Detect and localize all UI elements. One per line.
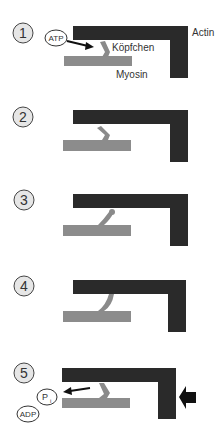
myosin-head — [100, 41, 110, 57]
myosin-label: Myosin — [116, 69, 148, 80]
pi-label: P — [42, 392, 48, 402]
arrow-head-icon — [85, 42, 94, 50]
head-label: Köpfchen — [112, 42, 154, 53]
step-5: 5 P i ADP — [14, 363, 196, 422]
step-number: 3 — [20, 192, 28, 208]
step-number: 5 — [20, 365, 28, 381]
actin-label: Actin — [192, 27, 214, 38]
step-4: 4 — [14, 276, 186, 332]
actin-filament — [73, 194, 188, 246]
movement-arrow-icon — [179, 386, 196, 409]
step-1: 1 ATP Köpfchen Actin Myosin — [13, 23, 214, 80]
myosin-head-tip — [109, 209, 115, 215]
actin-filament — [73, 110, 188, 162]
cross-bridge-cycle-diagram: 1 ATP Köpfchen Actin Myosin 2 3 4 — [0, 0, 222, 429]
step-number: 4 — [20, 278, 28, 294]
myosin-filament — [63, 140, 131, 151]
myosin-head — [97, 126, 110, 140]
myosin-filament — [62, 398, 130, 408]
atp-arrow — [67, 41, 88, 46]
myosin-filament — [64, 56, 132, 66]
pi-subscript: i — [50, 398, 51, 404]
actin-filament — [73, 280, 186, 332]
myosin-filament — [63, 311, 131, 322]
myosin-filament — [63, 225, 131, 236]
myosin-head — [98, 294, 114, 311]
step-2: 2 — [13, 107, 188, 162]
myosin-head — [99, 383, 110, 398]
step-number: 1 — [19, 25, 27, 41]
step-number: 2 — [19, 109, 27, 125]
atp-label: ATP — [49, 34, 64, 43]
step-3: 3 — [14, 190, 188, 246]
arrow-head-icon — [63, 387, 72, 395]
pi-release-arrow — [70, 388, 90, 391]
actin-filament — [62, 368, 176, 419]
adp-label: ADP — [20, 410, 36, 419]
